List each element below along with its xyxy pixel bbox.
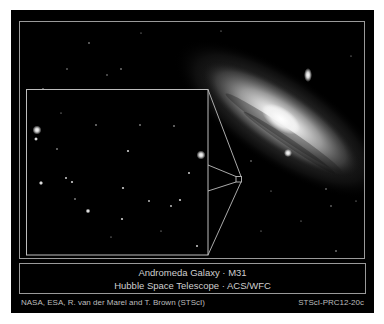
caption-title: Andromeda Galaxy · M31: [20, 267, 365, 278]
image-frame: [19, 21, 365, 259]
credit-text: NASA, ESA, R. van der Marel and T. Brown…: [21, 298, 205, 308]
release-id: STScI-PRC12-20c: [298, 298, 364, 308]
galaxy-image: [20, 22, 365, 259]
caption-instrument: Hubble Space Telescope · ACS/WFC: [20, 280, 365, 291]
caption-box: Andromeda Galaxy · M31 Hubble Space Tele…: [19, 263, 366, 294]
